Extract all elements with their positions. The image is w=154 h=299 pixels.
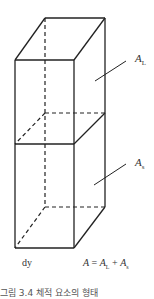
area-equation: A = AL + As <box>83 257 129 270</box>
figure-caption: 그림 3.4 체적 요소의 형태 <box>0 286 98 299</box>
middle-right-diagonal <box>74 113 105 144</box>
upper-area-symbol: A <box>135 52 142 64</box>
top-right-diagonal <box>74 18 105 60</box>
hidden-middle-left-diagonal <box>15 113 45 144</box>
upper-area-label: AL <box>135 52 146 67</box>
lower-area-subscript: s <box>142 163 145 171</box>
top-left-diagonal <box>15 18 45 60</box>
upper-area-subscript: L <box>142 59 146 67</box>
upper-leader-line <box>95 61 126 81</box>
hidden-bottom-left-diagonal <box>15 207 45 248</box>
eq-plus: + <box>110 257 121 268</box>
dy-label: dy <box>22 257 32 268</box>
lower-leader-line <box>94 164 126 185</box>
eq-term2-sub: s <box>126 264 128 270</box>
bottom-right-diagonal <box>74 207 105 248</box>
eq-equals: = <box>89 257 100 268</box>
lower-area-symbol: A <box>135 156 142 168</box>
lower-area-label: As <box>135 156 144 171</box>
